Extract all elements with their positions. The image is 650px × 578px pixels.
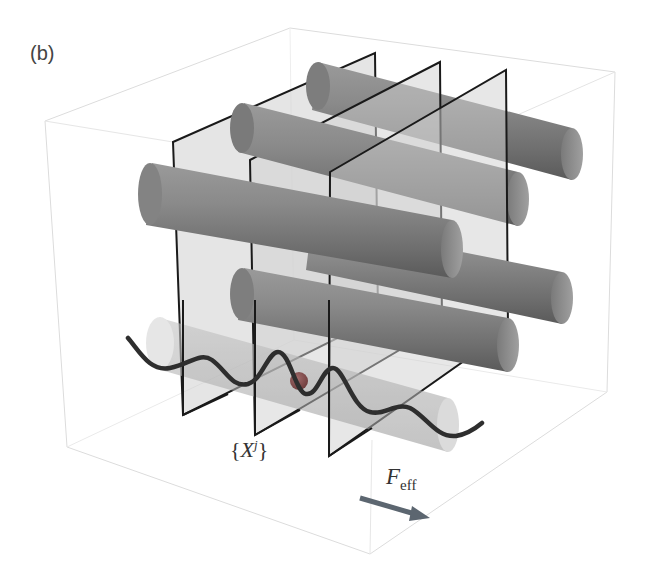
force-label-symbol: F bbox=[386, 464, 400, 489]
diagram-canvas bbox=[0, 0, 650, 578]
force-label: Feff bbox=[386, 464, 416, 494]
force-label-subscript: eff bbox=[400, 477, 416, 493]
slice-label-open-brace: { bbox=[230, 437, 241, 462]
slice-label-close-brace: } bbox=[258, 437, 269, 462]
panel-label: (b) bbox=[30, 42, 54, 65]
slice-label-symbol: X bbox=[241, 437, 254, 462]
slice-label: {Xj} bbox=[230, 437, 268, 463]
